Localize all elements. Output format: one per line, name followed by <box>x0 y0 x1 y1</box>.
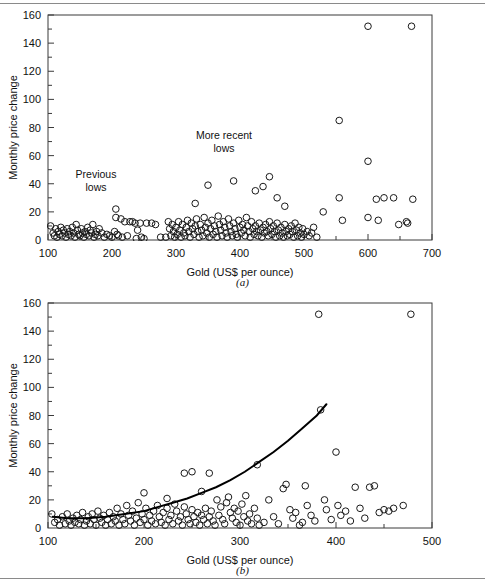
data-point <box>181 470 188 477</box>
data-point <box>342 508 349 515</box>
data-point <box>339 217 346 224</box>
x-tick-label: 300 <box>167 247 185 259</box>
x-tick-label: 100 <box>39 535 57 547</box>
y-tick-label: 60 <box>29 438 41 450</box>
data-point <box>270 513 277 520</box>
y-tick-label: 160 <box>23 9 41 21</box>
data-point <box>239 501 246 508</box>
x-tick-label: 700 <box>423 247 441 259</box>
data-point <box>219 516 226 523</box>
figure-panel-b: 020406080100120140160100200300400500Gold… <box>0 296 485 581</box>
y-tick-label: 40 <box>29 466 41 478</box>
data-point <box>410 196 417 203</box>
data-point <box>333 449 340 456</box>
y-tick-label: 0 <box>35 522 41 534</box>
data-point <box>275 520 282 527</box>
data-point <box>292 509 299 516</box>
data-point <box>208 508 215 515</box>
data-point <box>164 495 171 502</box>
scatter-plot-b: 020406080100120140160100200300400500Gold… <box>0 296 485 571</box>
y-tick-label: 60 <box>29 150 41 162</box>
data-point <box>225 494 232 501</box>
panel-caption-b: (b) <box>0 564 485 576</box>
data-point <box>274 195 281 202</box>
data-point <box>229 515 236 522</box>
data-point <box>404 220 411 227</box>
data-point <box>205 182 212 189</box>
data-point <box>373 196 380 203</box>
figure-panel-a: 0204060801001201401601002003004005006007… <box>0 8 485 293</box>
data-point <box>375 217 382 224</box>
x-tick-label: 400 <box>327 535 345 547</box>
y-tick-label: 160 <box>23 297 41 309</box>
data-point <box>181 504 188 511</box>
data-point <box>152 221 159 228</box>
data-point <box>215 213 222 220</box>
data-point <box>365 214 372 221</box>
data-point <box>395 221 402 228</box>
data-point <box>400 502 407 509</box>
data-point <box>120 516 127 523</box>
y-tick-label: 120 <box>23 65 41 77</box>
data-point <box>260 183 267 190</box>
plot-annotation: lows <box>85 181 106 193</box>
data-point <box>168 512 175 519</box>
x-tick-label: 600 <box>359 247 377 259</box>
data-point <box>95 508 102 515</box>
data-point <box>251 505 258 512</box>
data-point <box>336 195 343 202</box>
data-point <box>123 502 130 509</box>
data-point <box>365 23 372 30</box>
data-point <box>408 23 415 30</box>
x-tick-label: 100 <box>39 247 57 259</box>
y-tick-label: 20 <box>29 206 41 218</box>
plot-annotation: Previous <box>76 168 117 180</box>
data-point <box>192 200 199 207</box>
y-tick-label: 140 <box>23 325 41 337</box>
data-point <box>323 506 330 513</box>
x-tick-label: 200 <box>103 247 121 259</box>
data-point <box>214 497 221 504</box>
x-tick-label: 300 <box>231 535 249 547</box>
data-point <box>90 221 97 228</box>
bottom-divider-rule <box>0 578 485 579</box>
fitted-trend-curve <box>53 404 327 518</box>
data-point <box>321 497 328 504</box>
data-point <box>235 217 242 224</box>
data-point <box>266 497 273 504</box>
data-point <box>216 512 223 519</box>
data-point <box>312 518 319 525</box>
data-point <box>252 187 259 194</box>
data-point <box>230 178 237 185</box>
data-point <box>335 502 342 509</box>
x-tick-label: 200 <box>135 535 153 547</box>
data-point <box>79 509 86 516</box>
data-point <box>242 492 249 499</box>
data-point <box>347 518 354 525</box>
data-point <box>134 227 141 234</box>
x-tick-label: 500 <box>423 535 441 547</box>
plot-annotation: lows <box>213 142 234 154</box>
data-point <box>115 232 122 239</box>
data-point <box>362 515 369 522</box>
data-point <box>357 505 364 512</box>
x-tick-label: 400 <box>231 247 249 259</box>
data-point <box>352 484 359 491</box>
data-point <box>248 218 255 225</box>
y-tick-label: 20 <box>29 494 41 506</box>
x-tick-label: 500 <box>295 247 313 259</box>
data-point <box>381 195 388 202</box>
plot-area-b: 020406080100120140160100200300400500Gold… <box>0 296 485 536</box>
data-point <box>266 173 273 180</box>
data-point <box>302 483 309 490</box>
scatter-plot-a: 0204060801001201401601002003004005006007… <box>0 8 485 283</box>
data-point <box>254 515 261 522</box>
data-point <box>390 195 397 202</box>
y-tick-label: 100 <box>23 93 41 105</box>
data-point <box>141 490 148 497</box>
data-point-group <box>49 311 415 529</box>
top-divider-rule <box>0 3 485 4</box>
data-point <box>135 499 142 506</box>
y-tick-label: 80 <box>29 122 41 134</box>
data-point <box>408 311 415 318</box>
